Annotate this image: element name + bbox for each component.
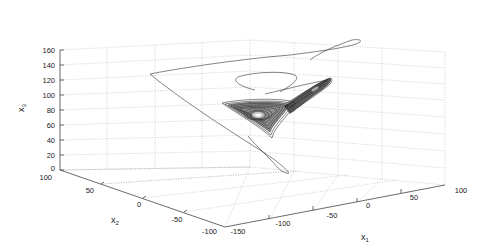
svg-text:0: 0 bbox=[366, 201, 370, 210]
svg-text:160: 160 bbox=[42, 46, 55, 55]
svg-text:-100: -100 bbox=[275, 219, 290, 228]
lorenz-3d-plot: 160 140 120 100 80 60 40 20 0 100 50 0 -… bbox=[0, 0, 485, 250]
z-tick-labels: 160 140 120 100 80 60 40 20 0 bbox=[42, 46, 55, 173]
svg-text:-150: -150 bbox=[230, 227, 245, 236]
svg-text:50: 50 bbox=[86, 186, 94, 195]
x2-axis-label: x2 bbox=[111, 215, 120, 226]
z-axis-label: x3 bbox=[16, 104, 27, 113]
trajectory bbox=[150, 40, 361, 174]
svg-text:0: 0 bbox=[51, 164, 55, 173]
grid bbox=[60, 40, 445, 227]
svg-text:x1: x1 bbox=[361, 232, 370, 243]
svg-text:x2: x2 bbox=[111, 215, 120, 226]
x2-tick-labels: 100 50 0 -50 -100 bbox=[39, 173, 217, 236]
svg-text:60: 60 bbox=[47, 121, 55, 130]
svg-text:0: 0 bbox=[137, 200, 141, 209]
svg-text:100: 100 bbox=[42, 91, 55, 100]
svg-text:120: 120 bbox=[42, 76, 55, 85]
svg-text:140: 140 bbox=[42, 61, 55, 70]
x2-axis-line bbox=[60, 170, 225, 227]
svg-text:80: 80 bbox=[47, 106, 55, 115]
svg-text:-100: -100 bbox=[202, 227, 217, 236]
svg-text:-50: -50 bbox=[172, 215, 183, 224]
svg-text:-50: -50 bbox=[327, 211, 338, 220]
svg-text:40: 40 bbox=[47, 136, 55, 145]
svg-text:20: 20 bbox=[47, 151, 55, 160]
x1-axis-label: x1 bbox=[361, 232, 370, 243]
svg-text:50: 50 bbox=[410, 193, 418, 202]
x1-tick-labels: -150 -100 -50 0 50 100 bbox=[230, 186, 467, 236]
svg-text:x3: x3 bbox=[16, 104, 27, 113]
svg-text:100: 100 bbox=[455, 186, 468, 195]
x1-axis-line bbox=[225, 185, 445, 227]
svg-text:100: 100 bbox=[39, 173, 52, 182]
